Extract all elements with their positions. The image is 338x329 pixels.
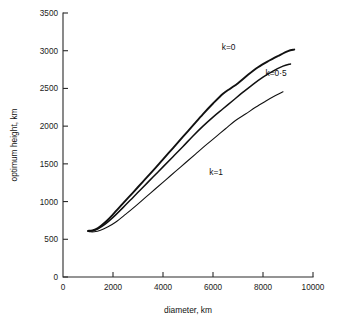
x-tick-labels: 0200040006000800010000 <box>61 283 325 292</box>
chart-canvas: 0500100015002000250030003500 02000400060… <box>0 0 338 329</box>
series-line-2 <box>89 92 283 232</box>
x-tick-label-8000: 8000 <box>254 283 273 292</box>
x-tick-marks <box>113 272 313 277</box>
x-axis-title: diameter, km <box>164 305 212 315</box>
axes-group <box>63 13 313 277</box>
y-tick-marks <box>63 13 68 277</box>
series-label-2: k=1 <box>209 167 223 177</box>
y-tick-labels: 0500100015002000250030003500 <box>40 9 59 282</box>
x-tick-label-6000: 6000 <box>204 283 223 292</box>
y-tick-label-500: 500 <box>44 235 58 244</box>
x-tick-label-2000: 2000 <box>104 283 123 292</box>
series-line-1 <box>88 64 291 231</box>
chart-figure: 0500100015002000250030003500 02000400060… <box>0 0 338 329</box>
series-label-0: k=0 <box>222 42 236 52</box>
y-tick-label-3000: 3000 <box>40 47 59 56</box>
y-axis-title: optimum height, km <box>9 108 19 181</box>
y-tick-label-3500: 3500 <box>40 9 59 18</box>
series-label-1: k=0·5 <box>266 68 288 78</box>
x-tick-label-4000: 4000 <box>154 283 173 292</box>
figure-caption-remnant <box>8 321 330 327</box>
y-tick-label-1500: 1500 <box>40 160 59 169</box>
y-tick-label-2500: 2500 <box>40 84 59 93</box>
y-tick-label-0: 0 <box>53 273 58 282</box>
data-series-group <box>88 50 294 232</box>
x-tick-label-10000: 10000 <box>302 283 325 292</box>
y-tick-label-1000: 1000 <box>40 198 59 207</box>
x-tick-label-0: 0 <box>61 283 66 292</box>
axis-spine <box>63 13 313 277</box>
y-tick-label-2000: 2000 <box>40 122 59 131</box>
